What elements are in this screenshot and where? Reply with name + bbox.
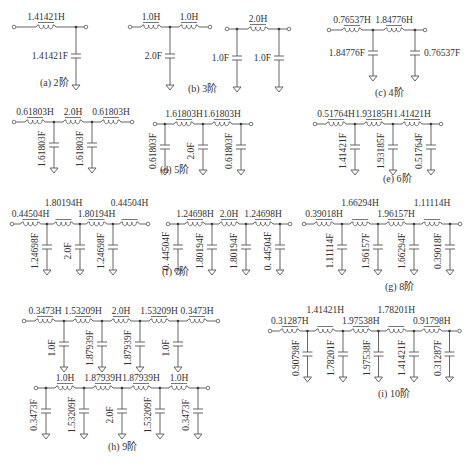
inductor-top-bar xyxy=(27,117,43,118)
ground-icon xyxy=(339,377,347,382)
ground-icon xyxy=(50,168,58,173)
inductor-top-bar xyxy=(151,316,167,317)
capacitor-label: 2.0F xyxy=(186,142,196,159)
inductor-label: 1.93185H xyxy=(355,109,393,119)
inductor: 1.24698H xyxy=(176,209,214,226)
ground-icon xyxy=(276,270,284,275)
inductor: 0.44504H xyxy=(12,209,50,226)
inductor-top-bar xyxy=(388,219,404,220)
inductor-top-bar xyxy=(328,119,344,120)
ground-icon xyxy=(76,270,84,275)
capacitor: 1.96157F xyxy=(361,223,383,275)
input-terminal xyxy=(34,386,38,390)
ground-icon xyxy=(304,377,312,382)
circuit-h-variant-1: 0.3473H1.0F1.53209H1.87939F2.0H1.87939F1… xyxy=(22,306,220,372)
capacitor-label: 1.61803F xyxy=(37,131,47,167)
inductor: 0.39018H xyxy=(305,209,343,226)
capacitor-label: 1.87939F xyxy=(123,330,133,366)
inductor-label: 1.11114H xyxy=(414,198,451,208)
circuit-b-variant-1: 1.0H2.0F1.0H xyxy=(128,12,212,90)
ground-icon xyxy=(233,87,241,92)
input-terminal xyxy=(12,120,16,124)
input-terminal xyxy=(12,25,16,29)
inductor-label: 0.39018H xyxy=(305,209,343,219)
ground-icon xyxy=(369,76,377,81)
circuit-g: 0.39018H1.11114F1.66294H1.96157F1.96157H… xyxy=(302,198,462,293)
inductor: 0.3473H xyxy=(178,306,216,323)
capacitor-label: 0.90798F xyxy=(291,340,301,376)
inductor: 1.78201H xyxy=(377,305,415,333)
ground-icon xyxy=(80,434,88,439)
inductor: 1.80194H xyxy=(78,209,116,226)
inductor: 1.0H xyxy=(46,373,84,390)
circuit-a: 1.41421H1.41421F(a) 2阶 xyxy=(12,12,88,90)
inductor: 0.61803H xyxy=(16,107,54,124)
inductor-label: 1.87939H xyxy=(122,373,160,383)
capacitor-label: 1.41421F xyxy=(32,51,68,61)
inductor-top-bar xyxy=(133,383,149,384)
inductor: 1.0H xyxy=(132,12,170,29)
circuit-e: 0.51764H1.41421F1.93185H1.93185F1.41421H… xyxy=(313,109,443,185)
inductor-top-bar xyxy=(316,219,332,220)
capacitor-label: 1.0F xyxy=(212,53,229,63)
inductor: 1.0H xyxy=(170,12,208,29)
inductor: 1.97538H xyxy=(342,316,380,333)
capacitor: 1.0F xyxy=(254,28,287,92)
capacitor-label: 1.61803F xyxy=(75,131,85,167)
capacitor-label: 1.53209F xyxy=(67,397,77,433)
capacitor: 1.24698F xyxy=(30,223,52,275)
ground-icon xyxy=(208,270,216,275)
inductor-top-bar xyxy=(282,326,298,327)
inductor-top-bar xyxy=(95,383,111,384)
inductor-label: 2.0H xyxy=(112,306,131,316)
inductor: 1.11114H xyxy=(414,198,451,226)
inductor-label: 1.0H xyxy=(180,12,199,22)
inductor-top-bar xyxy=(214,119,230,120)
inductor-top-bar xyxy=(221,219,237,220)
ground-icon xyxy=(275,87,283,92)
ground-icon xyxy=(60,367,68,372)
inductor-top-bar xyxy=(143,22,159,23)
capacitor: 1.53209F xyxy=(143,387,165,439)
inductor-top-bar xyxy=(38,22,54,23)
output-terminal xyxy=(287,27,291,31)
circuit-caption: (b) 3阶 xyxy=(188,82,217,95)
inductor: 1.53209H xyxy=(140,306,178,323)
inductor: 1.41421H xyxy=(16,12,76,29)
inductor-label: 1.24698H xyxy=(176,209,214,219)
inductor-top-bar xyxy=(353,326,369,327)
inductor-label: 1.61803H xyxy=(165,109,203,119)
capacitor: 1.87939F xyxy=(85,320,107,372)
inductor: 1.41421H xyxy=(306,305,344,333)
capacitor-label: 1.84776F xyxy=(329,48,365,58)
inductor-top-bar xyxy=(187,219,203,220)
inductor-label: 0.76537H xyxy=(333,15,371,25)
inductor: 1.0H xyxy=(160,373,198,390)
inductor-top-bar xyxy=(122,219,138,220)
capacitor-label: 1.0F xyxy=(47,339,57,356)
ground-icon xyxy=(351,170,359,175)
ground-icon xyxy=(410,270,418,275)
inductor: 2.0H xyxy=(54,107,92,124)
capacitor-label: 0.76537F xyxy=(424,48,460,58)
capacitor: 1.66294F xyxy=(397,223,419,275)
inductor: 1.84776H xyxy=(373,15,415,32)
capacitor: 0.31287F xyxy=(433,330,458,382)
ground-icon xyxy=(109,270,117,275)
output-terminal xyxy=(84,25,88,29)
inductor-top-bar xyxy=(250,24,266,25)
inductor-label: 0.44504H xyxy=(111,198,149,208)
capacitor-label: 0.51764F xyxy=(414,133,424,169)
capacitor-label: 1.80194F xyxy=(195,233,205,269)
inductor-label: 2.0H xyxy=(220,209,239,219)
inductor: 1.87939H xyxy=(122,373,160,390)
capacitor-label: 1.93185F xyxy=(376,133,386,169)
inductor-label: 1.41421H xyxy=(393,109,431,119)
output-terminal xyxy=(458,222,462,226)
capacitor: 0.90798F xyxy=(291,330,313,382)
inductor-label: 2.0H xyxy=(249,14,268,24)
input-terminal xyxy=(302,222,306,226)
capacitor: 1.80194F xyxy=(229,223,251,275)
inductor: 0.44504H xyxy=(111,198,149,226)
inductor-label: 1.97538H xyxy=(342,316,380,326)
